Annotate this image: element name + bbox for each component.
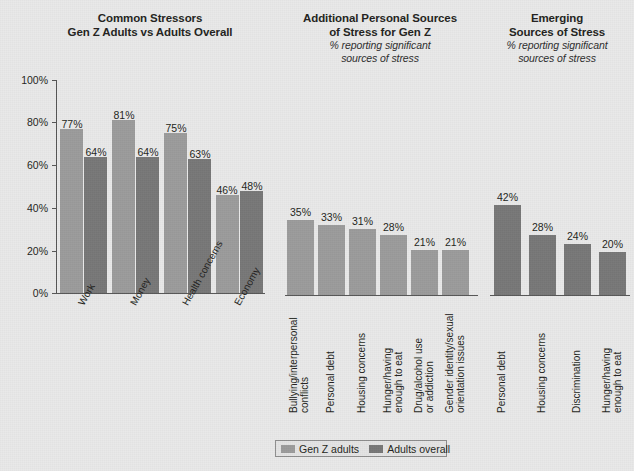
chart2-category-drug-alcohol: Drug/alcohol use or addiction xyxy=(413,303,435,413)
chart3-bar-slot-1 xyxy=(529,82,556,295)
chart1-title-line2: Gen Z Adults vs Adults Overall xyxy=(30,26,270,40)
chart3-bar-discrimination xyxy=(564,244,591,295)
chart3-value-personal-debt: 42% xyxy=(487,191,528,203)
chart1-title: Common Stressors Gen Z Adults vs Adults … xyxy=(30,12,270,39)
chart1-value-work-overall: 64% xyxy=(76,146,116,158)
legend-item-adults-overall: Adults overall xyxy=(369,443,450,455)
chart2-value-gender-identity: 21% xyxy=(435,236,476,248)
legend-swatch-genz-adults xyxy=(281,445,295,453)
chart2-category-personal-debt: Personal debt xyxy=(325,303,336,413)
chart1-y-axis xyxy=(56,80,57,294)
chart2-subtitle-line2: sources of stress xyxy=(280,52,480,64)
chart1-tick-label-60: 60% xyxy=(8,159,48,171)
chart2-category-bullying: Bullying/interpersonal conflicts xyxy=(288,303,310,413)
chart1-bar-money-overall xyxy=(136,157,159,293)
chart1-tick-label-80: 80% xyxy=(8,116,48,128)
chart1-value-economy-overall: 48% xyxy=(232,180,272,192)
chart1-tick-label-20: 20% xyxy=(8,245,48,257)
chart2-bar-slot-3 xyxy=(380,82,407,295)
chart1-value-health-overall: 63% xyxy=(180,148,220,160)
legend-label-adults-overall: Adults overall xyxy=(387,443,450,455)
chart1-tick-0 xyxy=(52,293,57,294)
chart2-category-hunger: Hunger/having enough to eat xyxy=(382,303,404,413)
chart1-bar-work-overall xyxy=(84,157,107,293)
chart3-value-hunger: 20% xyxy=(592,238,633,250)
chart-additional-personal-sources: Additional Personal Sources of Stress fo… xyxy=(280,0,480,420)
chart1-tick-60 xyxy=(52,165,57,166)
chart2-bar-slot-5 xyxy=(442,82,469,295)
chart1-tick-20 xyxy=(52,251,57,252)
chart3-bar-slot-2 xyxy=(564,82,591,295)
chart2-bar-bullying xyxy=(287,220,314,295)
chart2-value-hunger: 28% xyxy=(373,221,414,233)
chart2-category-gender-identity: Gender identity/sexual orientation issue… xyxy=(444,303,466,413)
chart2-subtitle-line1: % reporting significant xyxy=(280,39,480,51)
chart1-title-line1: Common Stressors xyxy=(30,12,270,26)
chart-emerging-sources: Emerging Sources of Stress % reporting s… xyxy=(480,0,634,420)
chart3-title-line2: Sources of Stress xyxy=(480,26,634,40)
chart3-title: Emerging Sources of Stress % reporting s… xyxy=(480,12,634,64)
chart2-bar-slot-1 xyxy=(318,82,345,295)
chart1-value-money-genz: 81% xyxy=(104,109,144,121)
chart2-title: Additional Personal Sources of Stress fo… xyxy=(280,12,480,64)
chart2-bar-drug-alcohol xyxy=(411,250,438,295)
chart1-tick-100 xyxy=(52,80,57,81)
chart1-value-work-genz: 77% xyxy=(52,118,92,130)
legend-swatch-adults-overall xyxy=(369,445,383,453)
chart3-subtitle-line2: sources of stress xyxy=(480,52,634,64)
chart3-category-discrimination: Discrimination xyxy=(571,303,582,413)
chart3-subtitle-line1: % reporting significant xyxy=(480,39,634,51)
chart1-tick-label-100: 100% xyxy=(8,74,48,86)
chart2-bar-slot-2 xyxy=(349,82,376,295)
chart-legend: Gen Z adults Adults overall xyxy=(275,440,447,457)
chart3-category-hunger: Hunger/having enough to eat xyxy=(601,303,623,413)
chart1-tick-40 xyxy=(52,208,57,209)
chart3-category-personal-debt: Personal debt xyxy=(496,303,507,413)
chart3-x-axis xyxy=(490,295,630,296)
legend-item-genz-adults: Gen Z adults xyxy=(281,443,359,455)
chart3-title-line1: Emerging xyxy=(480,12,634,26)
chart2-x-axis xyxy=(285,295,478,296)
chart1-value-money-overall: 64% xyxy=(128,146,168,158)
chart3-bar-slot-3 xyxy=(599,82,626,295)
legend-label-genz-adults: Gen Z adults xyxy=(299,443,359,455)
chart3-bar-personal-debt xyxy=(494,205,521,295)
chart2-bar-slot-0 xyxy=(287,82,314,295)
chart-common-stressors: Common Stressors Gen Z Adults vs Adults … xyxy=(0,0,280,420)
chart2-bar-slot-4 xyxy=(411,82,438,295)
chart2-bar-personal-debt xyxy=(318,225,345,295)
chart2-title-line2: of Stress for Gen Z xyxy=(280,26,480,40)
chart3-category-housing: Housing concerns xyxy=(536,303,547,413)
chart2-bar-hunger xyxy=(380,235,407,295)
chart2-category-housing: Housing concerns xyxy=(356,303,367,413)
chart1-tick-label-0: 0% xyxy=(8,287,48,299)
chart3-bar-hunger xyxy=(599,252,626,295)
chart1-value-health-genz: 75% xyxy=(156,122,196,134)
chart2-title-line1: Additional Personal Sources xyxy=(280,12,480,26)
chart3-bar-housing xyxy=(529,235,556,295)
chart3-bar-slot-0 xyxy=(494,82,521,295)
chart1-bar-group-work xyxy=(60,80,108,293)
chart1-tick-label-40: 40% xyxy=(8,202,48,214)
chart2-bar-housing xyxy=(349,229,376,295)
chart2-bar-gender-identity xyxy=(442,250,469,295)
